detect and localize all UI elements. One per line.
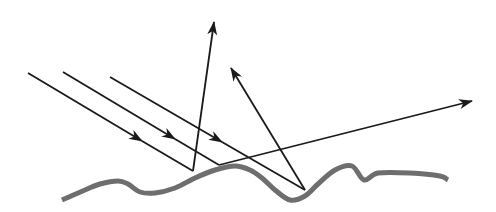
arrow-icon: [28, 73, 142, 141]
incident-ray-1: [28, 73, 193, 171]
rough-surface: [62, 165, 448, 200]
reflected-reflect-1-arrow-icon: [193, 22, 214, 171]
diagram-canvas: [0, 0, 496, 212]
reflected-reflect-3-arrow-icon: [231, 68, 305, 190]
diffuse-reflection-diagram: [0, 0, 496, 212]
surface-curve: [62, 165, 448, 200]
incident-rays: [28, 72, 305, 190]
